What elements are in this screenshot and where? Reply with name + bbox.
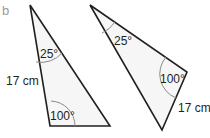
left-angle-bottom-label: 100° — [50, 109, 75, 123]
right-side-label: 17 cm — [178, 101, 210, 115]
right-triangle — [90, 5, 187, 130]
triangles-diagram — [0, 0, 210, 138]
left-angle-top-label: 25° — [40, 47, 58, 61]
right-angle-right-label: 100° — [160, 72, 185, 86]
left-side-label: 17 cm — [6, 74, 39, 88]
left-triangle — [30, 5, 110, 126]
right-angle-top-label: 25° — [114, 34, 132, 48]
